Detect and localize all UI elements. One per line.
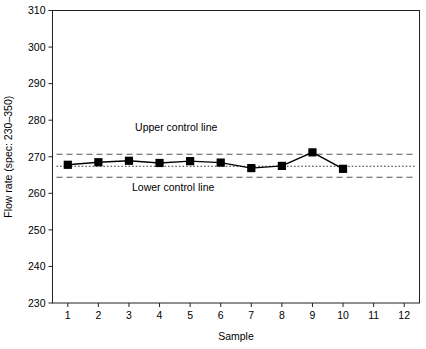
lower-control-line-label: Lower control line xyxy=(132,181,214,193)
x-tick-label: 11 xyxy=(368,309,379,321)
y-tick-label: 250 xyxy=(28,224,46,236)
chart-background xyxy=(0,0,426,349)
x-tick-label: 3 xyxy=(126,309,132,321)
x-tick-label: 12 xyxy=(398,309,410,321)
y-tick-label: 230 xyxy=(28,297,46,309)
data-point-marker xyxy=(64,161,72,169)
x-tick-label: 4 xyxy=(157,309,163,321)
x-axis-title: Sample xyxy=(218,330,254,342)
y-tick-label: 270 xyxy=(28,151,46,163)
data-point-marker xyxy=(125,157,133,165)
control-chart-canvas: 230240250260270280290300310 123456789101… xyxy=(0,0,426,349)
data-point-marker xyxy=(247,164,255,172)
x-tick-label: 2 xyxy=(95,309,101,321)
upper-control-line-label: Upper control line xyxy=(135,121,217,133)
y-tick-label: 310 xyxy=(28,4,46,16)
y-tick-label: 260 xyxy=(28,187,46,199)
data-point-marker xyxy=(308,148,316,156)
x-tick-label: 9 xyxy=(310,309,316,321)
y-tick-label: 280 xyxy=(28,114,46,126)
x-tick-label: 8 xyxy=(279,309,285,321)
data-point-marker xyxy=(155,159,163,167)
y-tick-label: 300 xyxy=(28,41,46,53)
data-point-marker xyxy=(278,162,286,170)
x-tick-label: 7 xyxy=(248,309,254,321)
y-axis-tick-labels: 230240250260270280290300310 xyxy=(28,4,46,309)
y-tick-label: 240 xyxy=(28,260,46,272)
y-axis-title: Flow rate (spec: 230–350) xyxy=(2,96,14,218)
data-point-marker xyxy=(186,157,194,165)
x-tick-label: 10 xyxy=(337,309,349,321)
data-point-marker xyxy=(217,159,225,167)
data-point-marker xyxy=(339,165,347,173)
x-tick-label: 1 xyxy=(65,309,71,321)
y-tick-label: 290 xyxy=(28,77,46,89)
data-point-marker xyxy=(94,158,102,166)
x-tick-label: 6 xyxy=(218,309,224,321)
x-tick-label: 5 xyxy=(187,309,193,321)
control-chart: 230240250260270280290300310 123456789101… xyxy=(0,0,426,349)
